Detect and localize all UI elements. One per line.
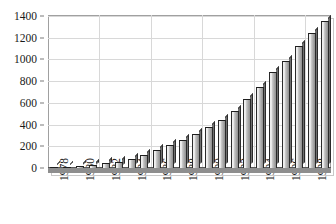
- bar[interactable]: [63, 167, 71, 168]
- bar-side-face: [83, 160, 86, 165]
- bar[interactable]: [231, 111, 239, 168]
- bar[interactable]: [153, 150, 161, 168]
- bar[interactable]: [269, 72, 277, 168]
- bar[interactable]: [89, 165, 97, 168]
- bar[interactable]: [205, 127, 213, 168]
- bar[interactable]: [243, 99, 251, 168]
- bar-chart: 0200400600800100012001400 19781980198219…: [0, 0, 336, 224]
- bars-layer: [48, 15, 331, 173]
- bar[interactable]: [115, 162, 123, 169]
- bar[interactable]: [308, 33, 316, 168]
- plot-area: [48, 15, 331, 173]
- bar[interactable]: [140, 155, 148, 168]
- bar-side-face: [96, 159, 99, 165]
- bar[interactable]: [102, 163, 110, 168]
- bar-side-face: [57, 161, 60, 165]
- bar[interactable]: [321, 21, 329, 168]
- bar[interactable]: [256, 87, 264, 168]
- bar[interactable]: [50, 167, 58, 168]
- bar-side-face: [70, 161, 73, 165]
- bar[interactable]: [179, 140, 187, 168]
- bar[interactable]: [218, 120, 226, 168]
- bar[interactable]: [76, 166, 84, 168]
- bar[interactable]: [128, 159, 136, 168]
- bar[interactable]: [192, 134, 200, 168]
- bar[interactable]: [282, 61, 290, 168]
- bar[interactable]: [166, 145, 174, 168]
- bar[interactable]: [295, 46, 303, 168]
